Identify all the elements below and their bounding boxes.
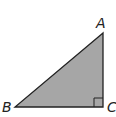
- vertex-label-c: C: [107, 99, 116, 115]
- vertex-label-a: A: [95, 15, 106, 31]
- triangle-diagram: A B C: [0, 0, 116, 117]
- vertex-label-b: B: [2, 99, 12, 115]
- triangle-abc: [15, 33, 103, 107]
